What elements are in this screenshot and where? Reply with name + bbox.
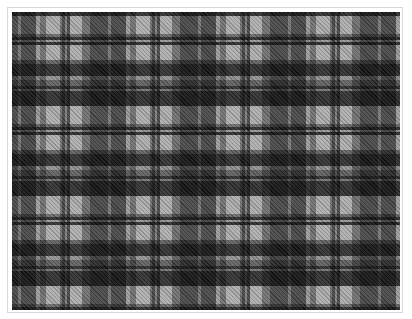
twill-texture xyxy=(12,12,400,310)
tartan-pattern-image xyxy=(12,12,400,310)
